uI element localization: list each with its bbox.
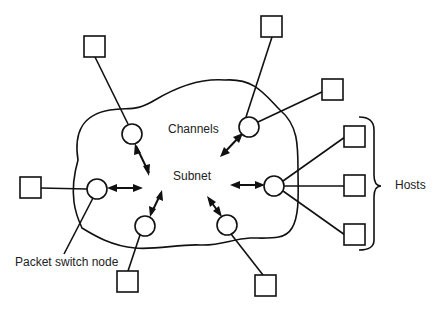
packet-switch-node xyxy=(135,216,155,236)
host-links xyxy=(40,37,345,275)
host-box xyxy=(255,275,276,296)
packet-switch-node-label: Packet switch node xyxy=(15,255,119,269)
host-box xyxy=(322,79,343,100)
subnet-label: Subnet xyxy=(173,169,212,183)
host-box xyxy=(344,224,365,245)
packet-switch-node xyxy=(217,215,237,235)
network-diagram: Channels Subnet Packet switch node Hosts xyxy=(0,0,439,311)
host-box xyxy=(261,16,282,37)
packet-switch-node xyxy=(87,179,107,199)
hosts xyxy=(20,16,365,296)
hosts-label: Hosts xyxy=(395,178,426,192)
host-box xyxy=(344,175,365,196)
packet-switch-node xyxy=(239,117,259,137)
host-box xyxy=(20,177,41,198)
host-box xyxy=(84,36,105,57)
host-box xyxy=(344,126,365,147)
subnet-cloud-boundary xyxy=(73,80,298,249)
host-box xyxy=(117,271,138,292)
channels-label: Channels xyxy=(168,122,219,136)
packet-switch-node xyxy=(264,176,284,196)
packet-switch-node xyxy=(122,124,142,144)
